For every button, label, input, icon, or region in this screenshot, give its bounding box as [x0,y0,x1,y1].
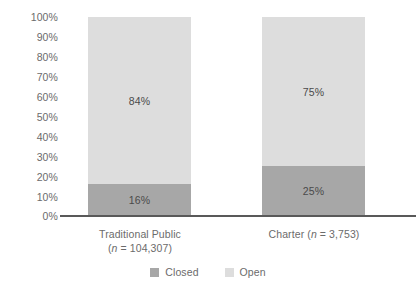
segment-label-open-traditional-public: 84% [129,95,150,107]
category-label-charter: Charter (n = 3,753) [236,228,392,242]
legend-item-closed: Closed [150,266,198,278]
segment-label-open-charter: 75% [303,86,324,98]
segment-closed-traditional-public: 16% [88,184,191,216]
y-tick-label-30: 30% [6,152,58,163]
y-tick-label-10: 10% [6,192,58,203]
plot-area: 84% 16% 75% 25% [60,17,416,216]
y-tick-label-40: 40% [6,132,58,143]
y-tick-label-60: 60% [6,92,58,103]
legend-item-open: Open [225,266,266,278]
bar-traditional-public: 84% 16% [88,17,191,216]
legend-label-closed: Closed [165,266,198,278]
segment-label-closed-charter: 25% [303,185,324,197]
y-tick-label-70: 70% [6,72,58,83]
category-n-value-charter: = 3,753) [317,228,360,240]
segment-open-charter: 75% [262,17,365,166]
legend-swatch-closed-icon [150,268,159,277]
segment-closed-charter: 25% [262,166,365,216]
category-n-traditional-public: (n = 104,307) [62,242,218,256]
chart-legend: Closed Open [0,266,416,278]
segment-label-closed-traditional-public: 16% [129,194,150,206]
y-tick-label-20: 20% [6,172,58,183]
y-tick-label-90: 90% [6,32,58,43]
category-n-charter: (n = 3,753) [304,228,359,240]
bar-charter: 75% 25% [262,17,365,216]
y-tick-label-100: 100% [6,12,58,23]
category-name-traditional-public: Traditional Public [99,228,181,240]
legend-swatch-open-icon [225,268,234,277]
category-name-charter: Charter [269,228,305,240]
y-tick-label-50: 50% [6,112,58,123]
y-tick-label-0: 0% [6,211,58,222]
legend-label-open: Open [240,266,266,278]
y-tick-label-80: 80% [6,52,58,63]
x-axis-baseline [60,215,416,217]
stacked-bar-chart: 100% 90% 80% 70% 60% 50% 40% 30% 20% 10%… [0,0,416,294]
category-label-traditional-public: Traditional Public (n = 104,307) [62,228,218,255]
category-n-value-traditional-public: = 104,307) [118,242,173,254]
segment-open-traditional-public: 84% [88,17,191,184]
